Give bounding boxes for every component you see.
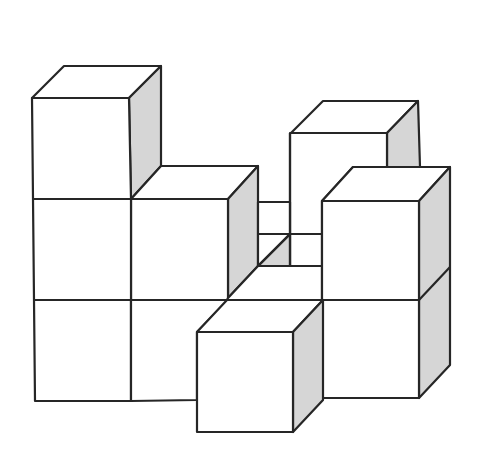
face-fb-front (197, 332, 293, 432)
face-mid-front (131, 199, 228, 300)
isometric-cubes-figure (0, 0, 478, 473)
face-back-gap-low (290, 234, 322, 266)
face-back-gap-top (258, 202, 290, 234)
face-l-row3-front (34, 300, 131, 401)
face-tl-front (32, 98, 131, 199)
face-rs-front-up (322, 201, 419, 300)
cube-diagram (0, 0, 478, 473)
face-l-row2-front (33, 199, 131, 300)
face-rs-front-low (322, 300, 419, 398)
